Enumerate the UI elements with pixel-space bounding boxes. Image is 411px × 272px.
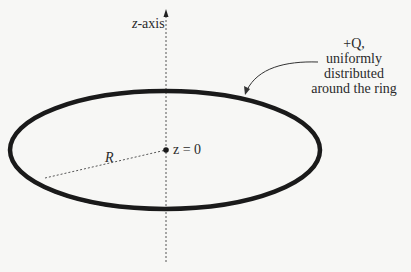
radius-label: R	[105, 150, 114, 165]
charge-symbol: +Q,	[298, 36, 410, 51]
z-axis-label: z-axis	[132, 16, 165, 31]
origin-dot	[163, 147, 169, 153]
charge-desc-line1: uniformly distributed	[298, 51, 410, 81]
charge-annotation: +Q, uniformly distributed around the rin…	[298, 36, 410, 96]
axis-label-rest: -axis	[137, 16, 164, 31]
pointer-arrowhead-icon	[244, 86, 250, 95]
charge-desc-line2: around the ring	[298, 81, 410, 96]
origin-label: z = 0	[173, 142, 201, 157]
